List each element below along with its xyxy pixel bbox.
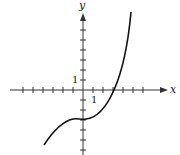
y-tick-label: 1 xyxy=(72,74,78,85)
x-axis-label: x xyxy=(170,83,176,96)
y-axis-label: y xyxy=(79,0,85,12)
function-curve xyxy=(44,12,131,145)
x-axis-arrow-icon xyxy=(160,87,168,93)
graph xyxy=(0,0,180,155)
y-axis-arrow-icon xyxy=(80,13,86,21)
x-tick-label: 1 xyxy=(91,94,97,105)
